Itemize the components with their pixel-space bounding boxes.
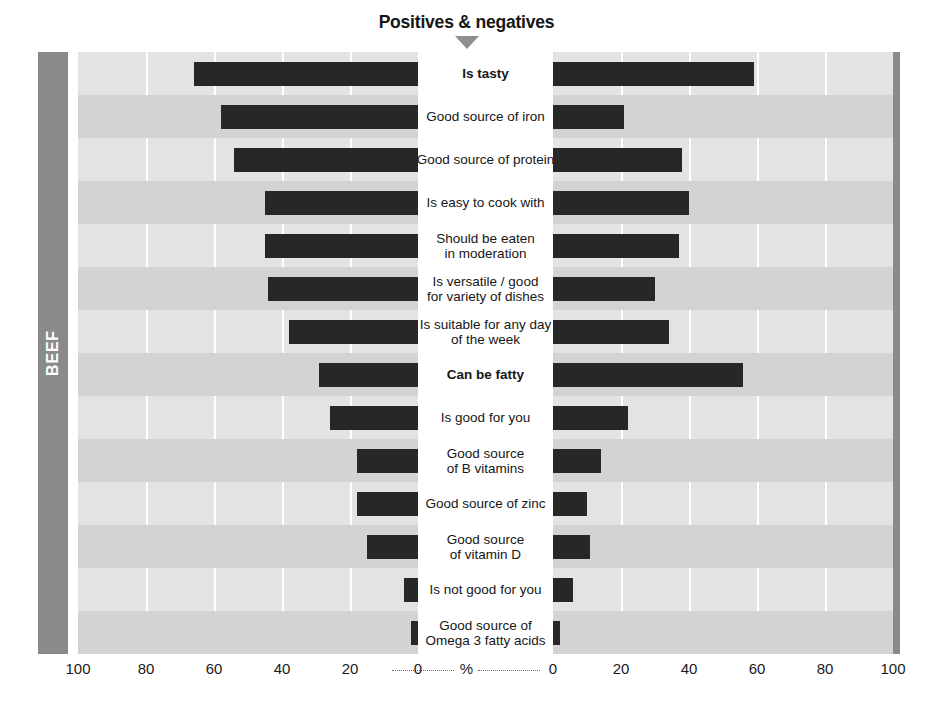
bar-beef-8 [330, 406, 418, 430]
page-title: Positives & negatives [0, 12, 933, 33]
x-tick-right-80: 80 [817, 660, 834, 677]
bar-row [553, 482, 893, 525]
category-label: Good source of protein [417, 152, 554, 167]
x-tick-left-80: 80 [138, 660, 155, 677]
bar-beef-11 [367, 535, 418, 559]
x-axis: % 100806040200020406080100 [0, 660, 933, 690]
category-label: Should be eatenin moderation [436, 231, 534, 261]
side-band-beef: BEEF [38, 52, 68, 654]
category-row: Is suitable for any dayof the week [418, 310, 553, 353]
bar-beef-4 [265, 234, 418, 258]
category-label: Good source of iron [426, 109, 545, 124]
bar-beef-10 [357, 492, 418, 516]
bar-row [78, 310, 418, 353]
bar-row [78, 353, 418, 396]
category-row: Good source of iron [418, 95, 553, 138]
bar-lamb-12 [553, 578, 573, 602]
bar-beef-1 [221, 105, 418, 129]
bar-row [78, 181, 418, 224]
bar-row [553, 224, 893, 267]
category-label-column: Is tastyGood source of ironGood source o… [418, 52, 553, 654]
category-row: Good sourceof B vitamins [418, 439, 553, 482]
category-label: Is versatile / goodfor variety of dishes [427, 274, 544, 304]
category-row: Should be eatenin moderation [418, 224, 553, 267]
bar-row [78, 482, 418, 525]
x-tick-left-40: 40 [274, 660, 291, 677]
x-tick-right-60: 60 [749, 660, 766, 677]
bar-panel-beef [78, 52, 418, 654]
bar-beef-13 [411, 621, 418, 645]
bar-panel-lamb: Total sample n = 500 [553, 52, 893, 654]
bar-beef-6 [289, 320, 418, 344]
bar-row [553, 525, 893, 568]
category-row: Good source of protein [418, 138, 553, 181]
category-label: Is easy to cook with [427, 195, 545, 210]
bar-row [553, 95, 893, 138]
bar-lamb-9 [553, 449, 601, 473]
category-label: Good source ofOmega 3 fatty acids [425, 618, 545, 648]
bar-row [553, 611, 893, 654]
category-label: Good sourceof vitamin D [447, 532, 524, 562]
bar-row [553, 439, 893, 482]
bar-row [553, 396, 893, 439]
bar-row [78, 525, 418, 568]
bar-beef-12 [404, 578, 418, 602]
bar-lamb-11 [553, 535, 590, 559]
bar-beef-2 [234, 148, 418, 172]
category-row: Is good for you [418, 396, 553, 439]
category-row: Is tasty [418, 52, 553, 95]
x-tick-right-40: 40 [681, 660, 698, 677]
x-tick-right-100: 100 [880, 660, 905, 677]
bar-lamb-5 [553, 277, 655, 301]
bar-row [78, 224, 418, 267]
axis-unit-label: % [460, 660, 473, 677]
axis-rule-right [478, 670, 540, 671]
triangle-down-icon [455, 36, 479, 49]
bar-row [78, 52, 418, 95]
bar-beef-3 [265, 191, 418, 215]
category-row: Good source of zinc [418, 482, 553, 525]
bar-lamb-8 [553, 406, 628, 430]
bar-beef-9 [357, 449, 418, 473]
category-row: Is versatile / goodfor variety of dishes [418, 267, 553, 310]
x-tick-left-60: 60 [206, 660, 223, 677]
category-label: Good source of zinc [425, 496, 545, 511]
bar-lamb-0 [553, 62, 754, 86]
chart-root: Positives & negatives BEEF LAMB Is tasty… [0, 0, 933, 717]
bar-lamb-2 [553, 148, 682, 172]
category-label: Can be fatty [447, 367, 524, 382]
bar-lamb-10 [553, 492, 587, 516]
category-row: Good sourceof vitamin D [418, 525, 553, 568]
bar-row [78, 396, 418, 439]
category-label: Is suitable for any dayof the week [420, 317, 551, 347]
bar-row [78, 267, 418, 310]
bar-row [78, 138, 418, 181]
category-label: Is good for you [441, 410, 530, 425]
bar-row [78, 439, 418, 482]
x-tick-left-100: 100 [65, 660, 90, 677]
bar-row [553, 353, 893, 396]
bar-lamb-3 [553, 191, 689, 215]
bar-lamb-1 [553, 105, 624, 129]
bar-lamb-13 [553, 621, 560, 645]
bar-row [553, 138, 893, 181]
x-tick-left-0: 0 [414, 660, 422, 677]
category-label: Good sourceof B vitamins [447, 446, 524, 476]
bar-row [553, 568, 893, 611]
category-label: Is tasty [462, 66, 509, 81]
x-tick-left-20: 20 [342, 660, 359, 677]
bar-row [553, 267, 893, 310]
bar-row [78, 95, 418, 138]
category-row: Can be fatty [418, 353, 553, 396]
bar-row [553, 181, 893, 224]
bar-row [553, 310, 893, 353]
bar-row [78, 568, 418, 611]
category-row: Good source ofOmega 3 fatty acids [418, 611, 553, 654]
bar-beef-0 [194, 62, 418, 86]
bar-lamb-4 [553, 234, 679, 258]
category-row: Is not good for you [418, 568, 553, 611]
bar-lamb-7 [553, 363, 743, 387]
bar-lamb-6 [553, 320, 669, 344]
bar-row [553, 52, 893, 95]
series-label-beef: BEEF [44, 330, 62, 376]
